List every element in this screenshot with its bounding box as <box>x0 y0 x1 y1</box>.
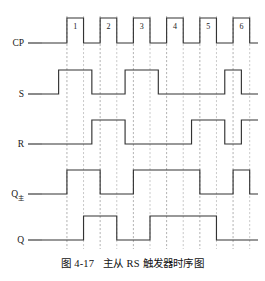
signal-label-cp: CP <box>12 38 24 48</box>
pulse-number-group: 123456 <box>73 22 243 31</box>
signal-label-r: R <box>18 139 25 149</box>
timing-diagram-chart: CPSRQ主Q 123456 <box>0 0 265 252</box>
clock-pulse-number-6: 6 <box>239 22 243 31</box>
clock-pulse-number-3: 3 <box>140 22 144 31</box>
figure-caption: 图 4-17主从 RS 触发器时序图 <box>0 255 265 270</box>
clock-pulse-number-4: 4 <box>173 22 177 31</box>
signal-label-q: Q <box>17 235 24 245</box>
caption-number: 图 4-17 <box>61 258 94 269</box>
caption-title: 主从 RS 触发器时序图 <box>103 258 204 269</box>
signal-sublabel-q_master: 主 <box>18 194 24 201</box>
clock-pulse-number-1: 1 <box>73 22 77 31</box>
clock-pulse-number-5: 5 <box>206 22 210 31</box>
signal-label-q_master: Q主 <box>11 189 24 201</box>
waveform-group <box>28 18 258 240</box>
signal-label-s: S <box>19 89 24 99</box>
clock-pulse-number-2: 2 <box>106 22 110 31</box>
timing-diagram-figure: CPSRQ主Q 123456 图 4-17主从 RS 触发器时序图 <box>0 0 265 281</box>
gridline-group <box>67 16 250 249</box>
signal-label-group: CPSRQ主Q <box>11 38 25 245</box>
waveform-q <box>42 216 258 240</box>
